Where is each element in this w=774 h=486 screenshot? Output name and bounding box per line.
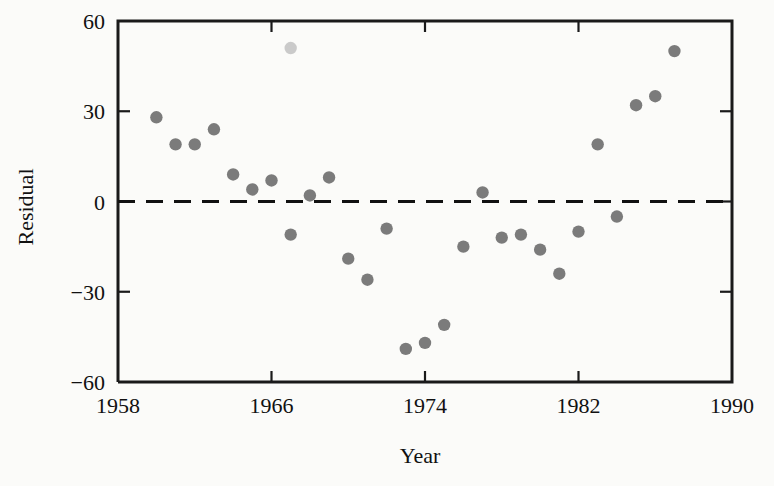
data-point-group (150, 42, 680, 355)
data-point (419, 337, 431, 349)
data-point (380, 222, 392, 234)
y-tick-label: 60 (83, 9, 105, 34)
x-tick-label: 1966 (250, 393, 294, 418)
y-tick-label: −30 (71, 280, 105, 305)
data-point (457, 240, 469, 252)
y-axis-title: Residual (13, 169, 38, 246)
x-tick-label: 1974 (403, 393, 447, 418)
data-point (668, 45, 680, 57)
data-point (284, 228, 296, 240)
data-point (150, 111, 162, 123)
data-point (572, 225, 584, 237)
y-tick-label: −60 (71, 370, 105, 395)
data-point (649, 90, 661, 102)
y-tick-label-group: −60−3003060 (71, 9, 105, 395)
data-point (361, 274, 373, 286)
x-axis-title: Year (400, 443, 441, 468)
data-point (227, 168, 239, 180)
data-point (208, 123, 220, 135)
data-point (591, 138, 603, 150)
data-point (189, 138, 201, 150)
data-point (438, 319, 450, 331)
data-point (630, 99, 642, 111)
data-point (304, 189, 316, 201)
x-tick-label: 1982 (557, 393, 601, 418)
y-tick-label: 0 (94, 190, 105, 215)
data-point (496, 231, 508, 243)
data-point (515, 228, 527, 240)
data-point (400, 343, 412, 355)
data-point (553, 268, 565, 280)
data-point (534, 243, 546, 255)
chart-page: 19581966197419821990 −60−3003060 Year Re… (0, 0, 774, 486)
data-point (265, 174, 277, 186)
data-point (246, 183, 258, 195)
y-tick-label: 30 (83, 99, 105, 124)
data-point (323, 171, 335, 183)
data-point (169, 138, 181, 150)
x-tick-label: 1958 (96, 393, 140, 418)
x-tick-label: 1990 (710, 393, 754, 418)
x-tick-label-group: 19581966197419821990 (96, 393, 754, 418)
data-point (476, 186, 488, 198)
data-point (284, 42, 296, 54)
data-point (342, 252, 354, 264)
data-point (611, 210, 623, 222)
residual-scatter-plot: 19581966197419821990 −60−3003060 Year Re… (0, 0, 774, 486)
